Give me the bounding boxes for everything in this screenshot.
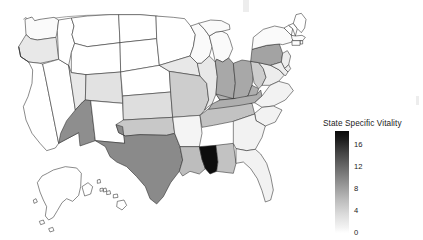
- legend-tick-12: 12: [354, 162, 362, 171]
- state-MA: [291, 35, 305, 40]
- state-HI-oahu: [107, 191, 111, 195]
- state-IN: [215, 58, 235, 100]
- state-HI-bigisland: [117, 200, 127, 210]
- state-CO: [85, 72, 122, 103]
- state-WY: [71, 43, 120, 75]
- colorbar-gradient: [335, 131, 349, 233]
- alaska-inset: [33, 167, 106, 232]
- state-HI-maui: [113, 194, 118, 198]
- state-NM: [91, 101, 125, 144]
- legend-tick-4: 4: [354, 206, 358, 215]
- state-HI-kauai: [100, 188, 103, 191]
- choropleth-figure: State Specific Vitality 16 12 8 4 0: [0, 0, 423, 240]
- state-FL: [236, 149, 273, 202]
- state-AK: [37, 167, 81, 220]
- state-WA: [25, 17, 59, 40]
- state-AL: [216, 143, 236, 173]
- state-MI: [209, 31, 232, 62]
- alaska-panhandle: [82, 183, 93, 196]
- state-OK: [116, 117, 175, 136]
- state-MT: [71, 15, 120, 47]
- state-KS: [123, 92, 173, 120]
- legend-tick-8: 8: [354, 184, 358, 193]
- us-choropleth-map: [0, 0, 320, 240]
- alaska-aleutian-2: [39, 220, 44, 225]
- state-ND: [119, 15, 157, 43]
- alaska-aleutian-1: [33, 199, 37, 204]
- alaska-island-2: [103, 188, 106, 192]
- legend-tick-16: 16: [354, 140, 362, 149]
- map-panel: [0, 0, 320, 240]
- legend-title: State Specific Vitality: [323, 119, 423, 128]
- alaska-island-1: [97, 179, 100, 183]
- alaska-aleutian-3: [49, 227, 54, 232]
- state-RI: [300, 41, 303, 44]
- state-CT: [292, 41, 300, 46]
- legend-tick-0: 0: [354, 228, 358, 237]
- colorbar: [335, 131, 349, 233]
- legend-panel: State Specific Vitality 16 12 8 4 0: [320, 0, 423, 240]
